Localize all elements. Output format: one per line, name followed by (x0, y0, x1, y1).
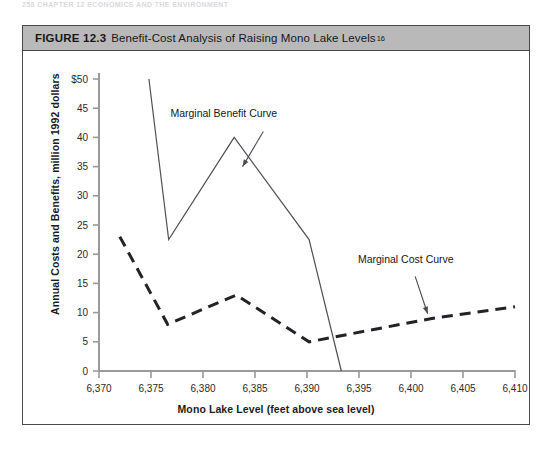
y-tick-label: 45 (77, 103, 89, 114)
y-tick-label: 15 (77, 278, 89, 289)
y-tick-label: 0 (82, 366, 88, 377)
axis-tick-labels: 051015202530354045$506,3706,3756,3806,38… (71, 74, 528, 394)
x-tick-label: 6,400 (398, 383, 423, 394)
x-tick-label: 6,395 (346, 383, 371, 394)
chart-svg: 051015202530354045$506,3706,3756,3806,38… (23, 51, 528, 424)
annotation-label: Marginal Benefit Curve (170, 107, 277, 119)
y-tick-label: 25 (77, 220, 89, 231)
y-tick-label: 20 (77, 249, 89, 260)
x-tick-label: 6,370 (86, 383, 111, 394)
figure-footnote-marker: 16 (377, 34, 385, 43)
annotation-arrowhead (243, 159, 249, 166)
x-axis-title: Mono Lake Level (feet above sea level) (23, 403, 529, 415)
annotation-arrowhead (423, 306, 428, 313)
axis-ticks (93, 79, 515, 378)
figure-label: FIGURE 12.3 (35, 32, 106, 44)
series-line-marginal-cost-curve (120, 237, 515, 342)
plot-area: 051015202530354045$506,3706,3756,3806,38… (23, 51, 529, 424)
x-tick-label: 6,385 (242, 383, 267, 394)
page-running-head: 258 CHAPTER 12 ECONOMICS AND THE ENVIRON… (22, 0, 442, 10)
figure-caption-bar: FIGURE 12.3 Benefit-Cost Analysis of Rai… (23, 26, 529, 51)
x-tick-label: 6,390 (294, 383, 319, 394)
series-line-marginal-benefit-curve (149, 79, 341, 371)
x-tick-label: 6,380 (190, 383, 215, 394)
y-tick-label: 5 (82, 336, 88, 347)
x-tick-label: 6,410 (502, 383, 527, 394)
y-tick-label: 35 (77, 161, 89, 172)
figure-caption-text: Benefit-Cost Analysis of Raising Mono La… (111, 32, 375, 44)
y-axis-title: Annual Costs and Benefits, million 1992 … (49, 75, 61, 315)
x-tick-label: 6,405 (450, 383, 475, 394)
data-series (120, 79, 515, 371)
y-tick-label: $50 (71, 74, 88, 85)
y-tick-label: 40 (77, 132, 89, 143)
x-tick-label: 6,375 (138, 383, 163, 394)
axis-lines (99, 73, 515, 371)
annotation-label: Marginal Cost Curve (358, 253, 454, 265)
figure-container: FIGURE 12.3 Benefit-Cost Analysis of Rai… (22, 25, 530, 425)
chart-annotations: Marginal Benefit CurveMarginal Cost Curv… (170, 107, 453, 314)
y-tick-label: 10 (77, 307, 89, 318)
y-tick-label: 30 (77, 190, 89, 201)
